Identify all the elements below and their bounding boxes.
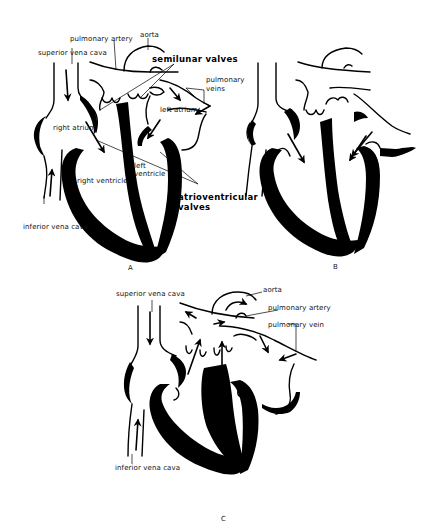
c-label-aorta: aorta <box>263 286 282 294</box>
c-pv-flow-arrow-2 <box>280 354 296 360</box>
label-right-ventricle: right ventricle <box>77 177 128 185</box>
b-ra-to-rv-arrow <box>288 134 304 162</box>
panel-c: aorta superior vena cava pulmonary arter… <box>115 286 331 523</box>
c-label-inferior-vena-cava: inferior vena cava <box>115 464 180 472</box>
label-atrioventricular-valves-2: valves <box>178 202 210 212</box>
panel-letter-a: A <box>128 264 133 272</box>
label-left-ventricle-2: ventricle <box>134 170 165 178</box>
c-label-pulmonary-vein: pulmonary vein <box>268 321 324 329</box>
label-aorta: aorta <box>140 31 159 39</box>
label-left-atrium: left atrium <box>160 106 198 114</box>
label-right-atrium: right atrium <box>53 124 96 132</box>
c-pa-flow-arrow <box>186 312 196 318</box>
svc-flow-arrow <box>66 70 68 100</box>
ivc-flow-arrow <box>50 170 52 196</box>
c-label-pulmonary-artery: pulmonary artery <box>268 304 331 312</box>
label-left-ventricle-1: left <box>134 162 146 170</box>
panel-b: B <box>246 48 416 271</box>
label-pulmonary-artery: pulmonary artery <box>70 35 133 43</box>
label-semilunar-valves: semilunar valves <box>152 54 238 64</box>
heart-cycle-figure: aorta pulmonary artery superior vena cav… <box>0 0 440 532</box>
c-label-superior-vena-cava: superior vena cava <box>116 290 185 298</box>
panel-letter-b: B <box>333 263 338 271</box>
panel-a: aorta pulmonary artery superior vena cav… <box>23 31 259 272</box>
panel-letter-c: C <box>221 515 226 523</box>
panel-a-left-atrium-outline <box>146 96 206 150</box>
c-pa-flow-arrow-2 <box>214 322 224 324</box>
label-pulmonary-veins-1: pulmonary <box>206 76 245 84</box>
c-aorta-flow-arrow <box>226 302 246 310</box>
pv-to-la-arrow <box>170 88 180 100</box>
label-superior-vena-cava: superior vena cava <box>38 49 107 57</box>
label-pulmonary-veins-2: veins <box>206 85 225 93</box>
c-ivc-flow-arrow <box>136 420 138 450</box>
label-inferior-vena-cava: inferior vena cava <box>23 223 88 231</box>
c-rv-outflow-arrow <box>188 340 200 374</box>
c-pv-flow-arrow <box>260 336 268 352</box>
